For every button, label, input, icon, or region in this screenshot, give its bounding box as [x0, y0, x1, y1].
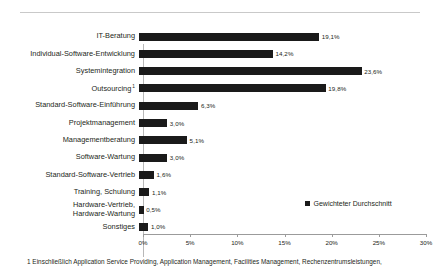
x-tick-mark: [190, 234, 191, 237]
bar-row: Standard-Software-Einführung6,3%: [0, 97, 438, 114]
category-label: Hardware-Vertrieb,Hardware-Wartung: [0, 201, 139, 218]
category-label: Outsourcing1: [0, 83, 139, 94]
category-label: Managementberatung: [0, 136, 139, 145]
category-label: Individual-Software-Entwicklung: [0, 50, 139, 59]
bar-container: 19,1%: [139, 28, 438, 45]
bar: [139, 206, 144, 214]
bar-container: 14,2%: [139, 45, 438, 62]
bar-container: 1,0%: [139, 218, 438, 235]
bar: [139, 50, 273, 58]
x-tick-mark: [237, 234, 238, 237]
x-tick-label: 15%: [278, 239, 290, 246]
legend-swatch-icon: [305, 201, 310, 206]
bar: [139, 136, 187, 144]
bar-row: Training, Schulung1,1%: [0, 184, 438, 201]
bar-row: Sonstiges1,0%: [0, 218, 438, 235]
x-tick-mark: [332, 234, 333, 237]
bar: [139, 119, 167, 127]
bar-value-label: 1,6%: [157, 171, 172, 178]
footnote: 1 Einschließlich Application Service Pro…: [27, 258, 382, 265]
legend-label: Gewichteter Durchschnitt: [314, 200, 392, 207]
bar-value-label: 3,0%: [170, 120, 185, 127]
bar-value-label: 5,1%: [190, 137, 205, 144]
category-label-line2: Hardware-Wartung: [73, 209, 135, 218]
bar-row: Outsourcing119,8%: [0, 80, 438, 97]
x-tick-label: 5%: [186, 239, 195, 246]
bar: [139, 188, 149, 196]
category-label: Training, Schulung: [0, 188, 139, 197]
bar-container: 3,0%: [139, 149, 438, 166]
category-label: IT-Beratung: [0, 32, 139, 41]
x-tick-label: 25%: [373, 239, 385, 246]
bar: [139, 102, 198, 110]
bar: [139, 171, 154, 179]
x-tick-mark: [143, 234, 144, 237]
x-tick-label: 10%: [231, 239, 243, 246]
x-tick-label: 0%: [139, 239, 148, 246]
bar-value-label: 14,2%: [275, 50, 293, 57]
legend: Gewichteter Durchschnitt: [305, 200, 392, 207]
bar-value-label: 3,0%: [170, 154, 185, 161]
category-label: Software-Wartung: [0, 153, 139, 162]
x-tick-label: 30%: [420, 239, 432, 246]
bar-row: Projektmanagement3,0%: [0, 115, 438, 132]
bar: [139, 67, 362, 75]
bar-container: 6,3%: [139, 97, 438, 114]
x-tick-mark: [426, 234, 427, 237]
bar-value-label: 23,6%: [364, 68, 382, 75]
bar-value-label: 19,1%: [322, 33, 340, 40]
bar-container: 5,1%: [139, 132, 438, 149]
header-divider: [20, 12, 420, 13]
bar-value-label: 6,3%: [201, 102, 216, 109]
category-label: Standard-Software-Einführung: [0, 101, 139, 110]
bar-container: 1,6%: [139, 166, 438, 183]
bar-container: 23,6%: [139, 63, 438, 80]
bar: [139, 33, 319, 41]
bar-value-label: 1,0%: [151, 223, 166, 230]
bar-row: Standard-Software-Vertrieb1,6%: [0, 166, 438, 183]
bar-row: Software-Wartung3,0%: [0, 149, 438, 166]
x-tick-mark: [285, 234, 286, 237]
category-label: Sonstiges: [0, 223, 139, 232]
bar-value-label: 0,5%: [146, 206, 161, 213]
category-label: Systemintegration: [0, 67, 139, 76]
bar-container: 1,1%: [139, 184, 438, 201]
category-label: Projektmanagement: [0, 119, 139, 128]
bar: [139, 154, 167, 162]
x-tick-label: 20%: [325, 239, 337, 246]
bar-container: 3,0%: [139, 115, 438, 132]
bar-value-label: 19,8%: [328, 85, 346, 92]
bar: [139, 223, 148, 231]
bar: [139, 84, 326, 92]
bar-row: Systemintegration23,6%: [0, 63, 438, 80]
bar-value-label: 1,1%: [152, 189, 167, 196]
bar-row: Managementberatung5,1%: [0, 132, 438, 149]
footnote-marker: 1: [132, 84, 135, 89]
bar-row: IT-Beratung19,1%: [0, 28, 438, 45]
category-label: Standard-Software-Vertrieb: [0, 171, 139, 180]
bar-container: 19,8%: [139, 80, 438, 97]
bar-row: Individual-Software-Entwicklung14,2%: [0, 45, 438, 62]
x-tick-mark: [379, 234, 380, 237]
bar-container: 0,5%: [139, 201, 438, 218]
